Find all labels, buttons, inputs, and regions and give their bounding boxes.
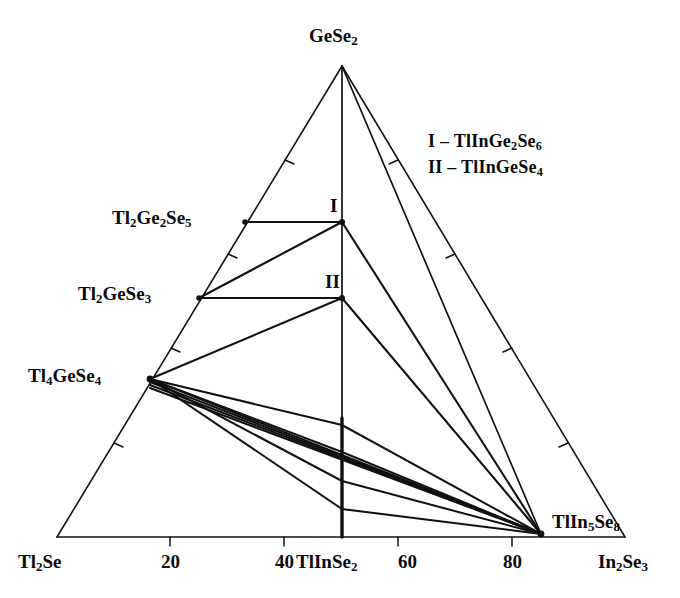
legend: I – TlInGe2Se6 II – TlInGeSe4 [428, 132, 543, 184]
legend-item-i: I – TlInGe2Se6 [428, 132, 543, 152]
tick-right-40 [446, 254, 455, 258]
tick-left-20 [285, 160, 294, 164]
tie-line-tl4gese4-II [150, 298, 342, 379]
node-marker-tl2gese3 [196, 295, 202, 301]
tick-label-80: 80 [503, 552, 522, 571]
point-label-i: I [330, 196, 337, 215]
corner-label-in2se3: In2Se3 [598, 552, 648, 574]
tick-left-40 [228, 254, 237, 258]
tick-right-60 [503, 348, 512, 352]
corner-label-tl2se: Tl2Se [18, 552, 61, 574]
node-marker-point-ii [339, 295, 345, 301]
tick-label-40: 40 [275, 552, 294, 571]
tie-line-tl2gese3-I [199, 222, 342, 298]
compound-label-tlinse2: TlInSe2 [296, 552, 357, 574]
compound-label-tl2ge2se5: Tl2Ge2Se5 [112, 208, 192, 230]
node-markers [147, 219, 545, 537]
tick-label-20: 20 [161, 552, 180, 571]
tie-line-I-tlin5se8 [342, 222, 541, 534]
tick-label-60: 60 [398, 552, 417, 571]
tick-right-80 [559, 443, 568, 447]
compound-label-tlin5se8: TlIn5Se8 [552, 512, 620, 534]
ternary-phase-diagram: GeSe2 Tl2Se In2Se3 20 40 60 80 Tl2Ge2Se5… [0, 0, 680, 598]
tick-left-80 [114, 443, 123, 447]
point-label-ii: II [325, 272, 340, 291]
compound-label-tl4gese4: Tl4GeSe4 [28, 366, 101, 388]
corner-label-gese2: GeSe2 [309, 26, 358, 48]
compound-label-tl2gese3: Tl2GeSe3 [78, 284, 151, 306]
node-marker-tl2ge2se5 [242, 219, 248, 225]
tick-left-60 [171, 348, 180, 352]
tick-right-20 [389, 160, 398, 164]
tie-line-II-tlin5se8 [342, 298, 541, 534]
legend-item-ii: II – TlInGeSe4 [428, 158, 543, 178]
node-marker-point-i [339, 219, 345, 225]
